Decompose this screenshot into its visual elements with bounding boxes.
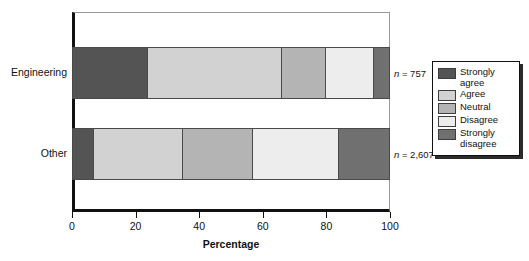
legend-item-label: Agree (460, 89, 485, 100)
legend-item-label: Neutral (460, 102, 491, 113)
x-axis-tick (326, 212, 327, 218)
legend-item[interactable]: Agree (438, 89, 515, 101)
n-value: = 757 (399, 68, 426, 79)
legend-swatch-icon (438, 68, 456, 79)
legend-item-label: Strongly disagree (460, 128, 515, 149)
x-axis-tick-label: 60 (257, 220, 269, 232)
x-axis-tick (390, 212, 391, 218)
stacked-bar-chart: Engineering Other n = 757 n = 2,607 0204… (0, 0, 529, 261)
annotation-n-engineering: n = 757 (394, 68, 426, 79)
x-axis-tick-label: 0 (69, 220, 75, 232)
bar-segment (94, 128, 183, 180)
legend: Strongly agreeAgreeNeutralDisagreeStrong… (432, 61, 520, 156)
legend-item-label: Disagree (460, 115, 498, 126)
legend-swatch-icon (438, 116, 456, 127)
legend-swatch-icon (438, 129, 456, 140)
x-axis-tick-label: 40 (193, 220, 205, 232)
bar-segment (253, 128, 339, 180)
category-label-engineering: Engineering (0, 66, 67, 78)
x-axis-tick (136, 212, 137, 218)
bar-segment (183, 128, 253, 180)
legend-item-label: Strongly agree (460, 67, 515, 88)
bar-segment (374, 47, 390, 99)
x-axis-tick (263, 212, 264, 218)
bar-engineering (72, 47, 390, 99)
legend-item[interactable]: Strongly agree (438, 67, 515, 88)
n-value: = 2,607 (399, 149, 434, 160)
x-axis-title: Percentage (72, 238, 390, 250)
plot-frame (72, 12, 390, 212)
legend-item[interactable]: Disagree (438, 115, 515, 127)
legend-item[interactable]: Strongly disagree (438, 128, 515, 149)
x-axis-tick-label: 100 (381, 220, 399, 232)
bar-segment (72, 128, 94, 180)
bar-other (72, 128, 390, 180)
x-axis-tick (199, 212, 200, 218)
x-axis-tick (72, 212, 73, 218)
legend-item[interactable]: Neutral (438, 102, 515, 114)
bar-segment (326, 47, 374, 99)
bar-segment (148, 47, 282, 99)
x-axis-tick-label: 20 (130, 220, 142, 232)
bar-segment (282, 47, 327, 99)
legend-swatch-icon (438, 103, 456, 114)
x-axis-tick-label: 80 (321, 220, 333, 232)
category-label-other: Other (0, 147, 67, 159)
bar-segment (72, 47, 148, 99)
bar-segment (339, 128, 390, 180)
legend-swatch-icon (438, 90, 456, 101)
annotation-n-other: n = 2,607 (394, 149, 434, 160)
